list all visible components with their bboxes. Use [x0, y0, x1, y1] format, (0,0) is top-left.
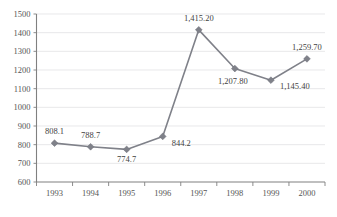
data-point-label: 1,415.20 — [184, 13, 214, 23]
y-axis-tick-label: 1000 — [14, 102, 31, 112]
y-axis-tick-label: 900 — [18, 121, 31, 131]
x-axis-tick-label: 1998 — [226, 188, 243, 198]
y-axis-tick-label: 1200 — [14, 65, 31, 75]
x-axis-tick-label: 1999 — [262, 188, 279, 198]
data-point-label: 1,259.70 — [292, 42, 322, 52]
data-point-label: 774.7 — [117, 154, 136, 164]
data-point-label: 1,145.40 — [280, 81, 310, 91]
y-axis-tick-label: 1300 — [14, 46, 31, 56]
y-axis-tick-label: 1100 — [14, 84, 31, 94]
chart-canvas: 150014001300120011001000900800700600 199… — [0, 0, 337, 217]
x-axis-tick-label: 1997 — [190, 188, 207, 198]
data-point-label: 1,207.80 — [218, 76, 248, 86]
y-axis-tick-label: 800 — [18, 140, 31, 150]
x-axis-tick-label: 1994 — [82, 188, 100, 198]
data-point-label: 844.2 — [172, 138, 191, 148]
y-axis-tick-label: 1500 — [14, 9, 31, 19]
data-point-label: 808.1 — [45, 126, 64, 136]
x-axis-tick-label: 1993 — [46, 188, 63, 198]
y-axis-tick-label: 1400 — [14, 28, 31, 38]
y-axis-tick-label: 700 — [18, 158, 31, 168]
data-point-label: 788.7 — [81, 130, 100, 140]
x-axis-tick-label: 2000 — [298, 188, 315, 198]
y-axis-tick-label: 600 — [18, 177, 31, 187]
x-axis-tick-label: 1995 — [118, 188, 135, 198]
line-chart: 150014001300120011001000900800700600 199… — [0, 0, 337, 217]
x-axis-tick-label: 1996 — [154, 188, 171, 198]
